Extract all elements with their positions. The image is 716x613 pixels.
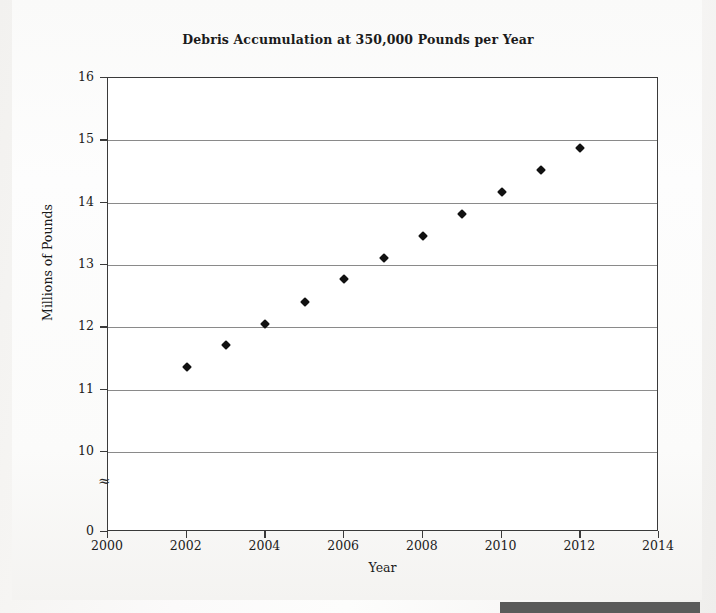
x-tick-label-2012: 2012 [549,538,609,553]
x-tick-2004 [264,531,265,538]
data-point [575,143,585,153]
x-tick-label-wrap: 2012 [549,538,609,556]
x-tick-2000 [107,531,108,538]
x-tick-2014 [658,531,659,538]
x-tick-label-wrap: 2010 [471,538,531,556]
x-tick-2006 [343,531,344,538]
y-tick-label-12: 12 [54,318,94,333]
x-tick-label-wrap: 2006 [313,538,373,556]
y-tick-label-10: 10 [54,443,94,458]
y-tick-label-wrap: 14 [54,194,94,210]
x-tick-label-2014: 2014 [628,538,688,553]
y-tick-11 [100,389,107,390]
gridline-y-11 [108,390,657,391]
x-tick-label-wrap: 2000 [77,538,137,556]
gridline-y-14 [108,203,657,204]
y-tick-label-wrap: 0 [54,523,94,539]
y-tick-13 [100,264,107,265]
y-tick-label-wrap: 13 [54,256,94,272]
y-tick-label-16: 16 [54,69,94,84]
y-axis-title: Millions of Pounds [40,183,55,343]
x-axis-title: Year [107,560,658,575]
y-tick-0 [100,531,107,532]
scanned-page-background: Debris Accumulation at 350,000 Pounds pe… [0,0,716,613]
x-tick-label-2002: 2002 [156,538,216,553]
gridline-y-10 [108,452,657,453]
chart-title: Debris Accumulation at 350,000 Pounds pe… [0,32,716,47]
y-tick-label-wrap: 11 [54,381,94,397]
y-tick-label-14: 14 [54,194,94,209]
y-tick-label-0: 0 [54,523,94,538]
y-tick-10 [100,451,107,452]
x-tick-label-2000: 2000 [77,538,137,553]
data-point [221,340,231,350]
x-tick-label-2010: 2010 [471,538,531,553]
x-tick-2010 [501,531,502,538]
x-tick-2012 [579,531,580,538]
y-tick-12 [100,326,107,327]
x-tick-label-wrap: 2014 [628,538,688,556]
data-point [339,274,349,284]
x-tick-label-wrap: 2002 [156,538,216,556]
plot-area [107,77,658,531]
data-point [182,362,192,372]
x-tick-label-2004: 2004 [234,538,294,553]
x-tick-label-wrap: 2004 [234,538,294,556]
x-tick-label-2008: 2008 [392,538,452,553]
x-tick-2002 [186,531,187,538]
y-tick-label-wrap: 12 [54,318,94,334]
gridline-y-12 [108,327,657,328]
data-point [536,165,546,175]
gridline-y-15 [108,140,657,141]
y-tick-16 [100,77,107,78]
x-tick-2008 [422,531,423,538]
y-tick-label-13: 13 [54,256,94,271]
y-tick-label-11: 11 [54,381,94,396]
data-point [457,209,467,219]
y-tick-label-wrap: 15 [54,131,94,147]
x-tick-label-2006: 2006 [313,538,373,553]
data-point [379,253,389,263]
data-point [418,231,428,241]
scan-artifact-bar [500,602,700,613]
y-tick-15 [100,139,107,140]
gridline-y-13 [108,265,657,266]
data-point [497,187,507,197]
y-tick-label-wrap: 10 [54,443,94,459]
y-tick-label-wrap: 16 [54,69,94,85]
y-tick-14 [100,202,107,203]
data-point [300,297,310,307]
x-tick-label-wrap: 2008 [392,538,452,556]
y-tick-label-15: 15 [54,131,94,146]
y-axis-break-icon: ≈ [98,474,111,489]
